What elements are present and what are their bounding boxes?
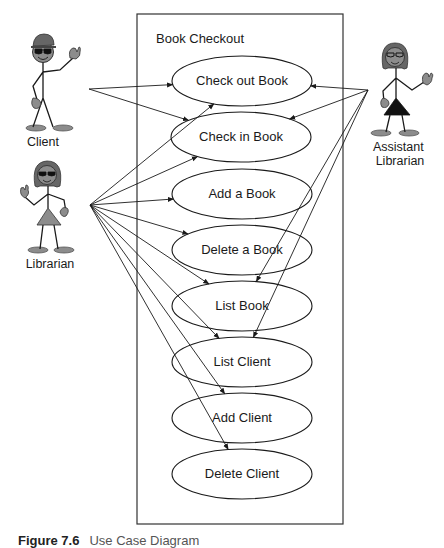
librarian-waving-hand-icon	[21, 185, 29, 198]
figure-caption: Figure 7.6Use Case Diagram	[18, 533, 199, 548]
assistant-waving-hand-icon	[422, 73, 432, 85]
figure-caption-text: Use Case Diagram	[89, 533, 199, 548]
client-cap-icon	[33, 34, 54, 46]
actor-label-assistant-line1: Assistant	[373, 140, 424, 154]
client-body	[33, 58, 73, 127]
actor-label-assistant-line2: Librarian	[376, 154, 425, 168]
librarian-left-foot	[28, 247, 48, 253]
use-case-label-list-client: List Client	[172, 354, 312, 370]
actor-client-figure[interactable]	[26, 34, 80, 131]
use-case-label-list-book: List Book	[172, 298, 312, 314]
association-client-to-check-out-book	[89, 85, 173, 89]
actor-label-client: Client	[27, 135, 59, 149]
association-assistant-librarian-to-check-out-book	[311, 86, 368, 90]
system-title: Book Checkout	[156, 31, 244, 46]
assistant-legs	[386, 115, 405, 132]
actor-assistant-librarian-figure[interactable]	[371, 43, 433, 136]
librarian-right-hand-icon	[60, 208, 68, 217]
librarian-dress	[37, 208, 61, 225]
assistant-left-foot	[371, 130, 391, 136]
actor-label-assistant-librarian: Assistant Librarian	[373, 140, 427, 168]
client-cap-brim	[31, 46, 56, 48]
actor-librarian-figure[interactable]	[21, 161, 75, 253]
assistant-right-foot	[399, 130, 419, 136]
librarian-body	[25, 186, 66, 212]
association-librarian-to-add-a-book	[90, 199, 173, 205]
assistant-body	[383, 68, 424, 102]
actor-label-librarian: Librarian	[26, 257, 75, 271]
use-case-label-check-out-book: Check out Book	[172, 73, 312, 89]
client-left-hand-icon	[32, 98, 41, 109]
librarian-legs	[40, 225, 58, 249]
client-waving-hand-icon	[69, 47, 80, 59]
association-librarian-to-delete-a-book	[90, 205, 188, 234]
use-case-label-add-a-book: Add a Book	[172, 186, 312, 202]
figure-number: Figure 7.6	[18, 533, 79, 548]
use-case-label-delete-client: Delete Client	[172, 466, 312, 482]
use-case-label-check-in-book: Check in Book	[171, 129, 311, 145]
assistant-left-hand-icon	[381, 98, 389, 108]
client-right-foot	[53, 125, 73, 131]
association-client-to-check-in-book	[89, 89, 189, 120]
use-case-label-delete-a-book: Delete a Book	[172, 242, 312, 258]
use-case-label-add-client: Add Client	[172, 410, 312, 426]
librarian-right-foot	[54, 247, 74, 253]
client-left-foot	[26, 125, 46, 131]
use-case-ellipses	[171, 56, 312, 499]
